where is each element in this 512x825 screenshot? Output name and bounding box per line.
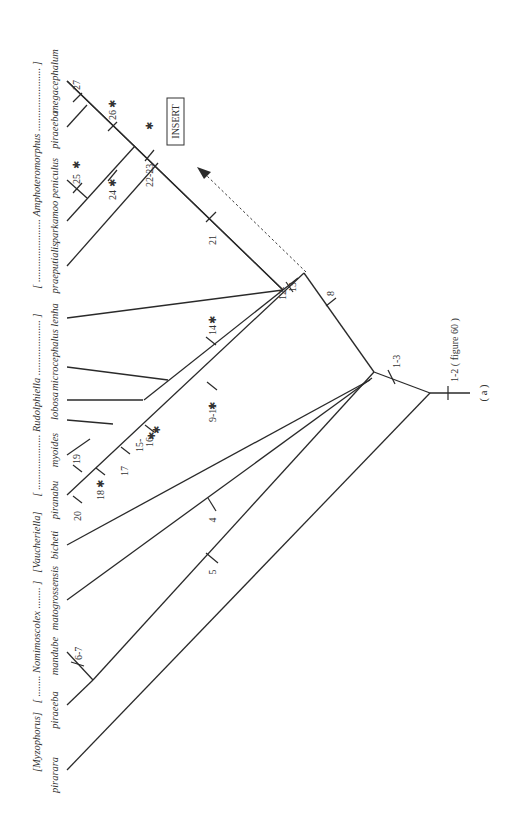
label-13: 13 xyxy=(287,282,298,292)
label-27: 27 xyxy=(71,80,82,90)
tick-22-23 xyxy=(145,150,154,161)
taxon-microcephalus: microcephalus xyxy=(49,329,60,390)
branch-nomimoscolex xyxy=(93,372,374,680)
branch-rudolphiella-outer xyxy=(67,273,304,495)
tick-18 xyxy=(96,468,105,475)
branch-rudolphiella-inner xyxy=(144,278,298,400)
label-19: 19 xyxy=(71,454,82,464)
branch-bicheti xyxy=(67,380,370,545)
label-21: 21 xyxy=(207,235,218,245)
star-9-11: ✱ xyxy=(207,402,218,410)
tick-20 xyxy=(73,496,82,503)
star-26: ✱ xyxy=(107,100,118,108)
star-15-16b: ✱ xyxy=(151,426,162,434)
taxon-myoides: myoides xyxy=(49,433,60,467)
label-8: 8 xyxy=(325,291,336,296)
branch-piranabu xyxy=(67,439,90,455)
insert-box: INSERT xyxy=(167,98,184,145)
taxon-parkamoo: parkamoo xyxy=(49,201,60,245)
insert-label: INSERT xyxy=(170,104,181,138)
label-26: 26 xyxy=(107,110,118,120)
taxon-mandube: mandube xyxy=(49,636,60,675)
taxon-bicheti: bicheti xyxy=(49,531,60,560)
group-rudolphiella: [ ..................... Rudolphiella ...… xyxy=(31,313,42,496)
taxon-piraeeba-2: piraeeba xyxy=(49,111,60,149)
label-1-3: 1-3 xyxy=(391,355,402,368)
label-14: 14 xyxy=(207,325,218,335)
group-myzophorus: [Myzophorus] xyxy=(31,712,42,772)
branch-lenha-tip xyxy=(67,290,283,318)
branch-node-b xyxy=(304,273,374,372)
tick-9-11 xyxy=(207,382,217,390)
taxon-praeputialis: praeputialis xyxy=(49,243,60,295)
label-1-2: 1-2 ( figure 60 ) xyxy=(449,318,461,382)
branch-matogrossensis xyxy=(67,378,372,600)
cladogram-figure: INSERT 1-2 ( figure 60 ) 1-3 4 5 6-7 8 9… xyxy=(0,0,512,825)
taxon-piraeeba-1: piraeeba xyxy=(49,691,60,729)
group-amphoteromorphus: [ ........................ Amphoteromorp… xyxy=(31,61,42,289)
taxon-lenha: lenha xyxy=(49,303,60,326)
star-24: ✱ xyxy=(107,179,118,187)
star-25: ✱ xyxy=(71,161,82,169)
taxon-megacephalum: megacephalum xyxy=(49,49,60,113)
tick-4 xyxy=(208,498,216,511)
star-22-23: ✱ xyxy=(144,122,155,130)
star-18: ✱ xyxy=(95,480,106,488)
insert-arrow-line xyxy=(205,174,306,272)
tick-26 xyxy=(108,122,117,131)
label-4: 4 xyxy=(207,518,218,523)
group-nomimoscolex: [ ........ Nomimoscolex ........ ] xyxy=(31,581,42,704)
label-5: 5 xyxy=(207,570,218,575)
label-6-7: 6-7 xyxy=(73,647,84,660)
taxon-pirarara: pirarara xyxy=(49,757,60,794)
tick-5 xyxy=(206,553,218,563)
label-20: 20 xyxy=(72,511,83,521)
tick-8 xyxy=(326,298,336,306)
group-vaucheriella: [Vaucheriella] xyxy=(31,511,42,572)
root-stem xyxy=(430,386,470,400)
tick-17 xyxy=(121,447,130,454)
label-25: 25 xyxy=(71,174,82,184)
branch-microcephalus xyxy=(67,367,168,380)
taxon-lobosa: lobosa xyxy=(49,392,60,420)
label-24: 24 xyxy=(107,190,118,200)
branch-pirarara xyxy=(67,393,430,770)
label-18: 18 xyxy=(95,490,106,500)
taxon-matogrossensis: matogrossensis xyxy=(49,566,60,630)
branch-piraeeba-2 xyxy=(67,105,87,127)
star-14: ✱ xyxy=(207,316,218,324)
panel-label: ( a ) xyxy=(478,384,490,401)
tick-14 xyxy=(206,337,216,345)
branch-piraeeba-1 xyxy=(67,680,93,705)
label-22-23: 22-23 xyxy=(144,164,155,187)
branch-node-a xyxy=(374,372,430,393)
tick-19 xyxy=(73,465,82,472)
taxon-piranabu: piranabu xyxy=(49,481,60,521)
tick-27 xyxy=(73,93,82,102)
label-17: 17 xyxy=(119,466,130,476)
taxon-peniculus: peniculus xyxy=(49,158,60,199)
branch-myoides xyxy=(67,420,113,424)
